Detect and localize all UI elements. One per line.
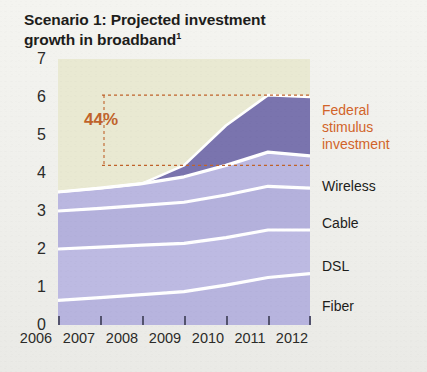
x-axis-label-2006: 2006 [14, 330, 58, 346]
y-axis-label-7: 7 [24, 51, 46, 67]
y-axis-label-3: 3 [24, 203, 46, 219]
x-axis-label-2010: 2010 [186, 330, 230, 346]
x-axis-tick-2010 [226, 316, 228, 325]
y-axis-label-6: 6 [24, 89, 46, 105]
x-axis-tick-2008 [142, 316, 144, 325]
title-line-2: growth in broadband [24, 31, 176, 48]
x-axis-tick-2009 [184, 316, 186, 325]
x-axis-label-2008: 2008 [100, 330, 144, 346]
x-axis-label-2011: 2011 [228, 330, 272, 346]
y-axis-label-1: 1 [24, 279, 46, 295]
x-axis-tick-2012 [309, 316, 311, 325]
x-axis-label-2009: 2009 [143, 330, 187, 346]
x-axis-label-2012: 2012 [270, 330, 314, 346]
series-label-federal-stimulus: Federal stimulus investment [322, 102, 422, 152]
title-line-1: Scenario 1: Projected investment [24, 11, 265, 28]
chart-figure: Scenario 1: Projected investment growth … [0, 0, 427, 372]
y-axis-label-4: 4 [24, 165, 46, 181]
series-label-dsl: DSL [322, 258, 349, 275]
y-axis-label-5: 5 [24, 127, 46, 143]
series-label-cable: Cable [322, 215, 359, 232]
series-label-wireless: Wireless [322, 178, 376, 195]
title-footnote-marker: 1 [176, 31, 181, 41]
x-axis-tick-2011 [268, 316, 270, 325]
x-axis-label-2007: 2007 [57, 330, 101, 346]
x-axis-tick-2006 [58, 316, 60, 325]
y-axis-label-2: 2 [24, 241, 46, 257]
plot-area [58, 59, 310, 325]
growth-percentage-label: 44% [84, 110, 118, 130]
x-axis-tick-2007 [100, 316, 102, 325]
series-label-fiber: Fiber [322, 298, 354, 315]
page-title: Scenario 1: Projected investment growth … [24, 10, 354, 51]
stacked-area-chart [58, 59, 310, 325]
